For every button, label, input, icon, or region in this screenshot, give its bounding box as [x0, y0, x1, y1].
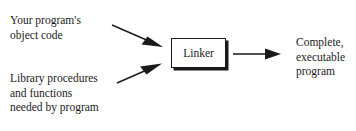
arrow-object-code-to-linker: [112, 25, 163, 47]
arrow-linker-to-output: [233, 49, 281, 60]
diagram-canvas: Your program's object code Library proce…: [0, 0, 356, 131]
arrow-layer: [0, 0, 356, 131]
arrow-library-to-linker: [117, 64, 162, 84]
